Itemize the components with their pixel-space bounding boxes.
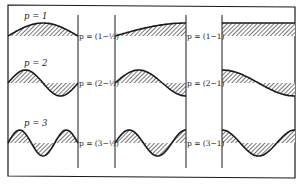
mode-label-open-closed-p2: p = (2−½) bbox=[79, 79, 119, 88]
wave-fill-row3-col1 bbox=[8, 130, 78, 156]
wave-fill-row1-col3 bbox=[222, 23, 295, 36]
mode-label-closed-closed-p3: p = (3−1) bbox=[187, 139, 225, 148]
mode-label-p2: p = 2 bbox=[24, 58, 47, 68]
wave-fill-row1-col2 bbox=[115, 23, 186, 36]
wave-panels bbox=[8, 23, 295, 156]
mode-label-open-closed-p3: p = (3−½) bbox=[79, 139, 119, 148]
mode-label-p3: p = 3 bbox=[24, 118, 47, 128]
wave-fill-row3-col3 bbox=[222, 130, 295, 156]
mode-label-closed-closed-p2: p = (2−1) bbox=[187, 79, 225, 88]
mode-label-closed-closed-p1: p = (1−1) bbox=[187, 32, 225, 41]
standing-wave-diagram: p = 1p = (1−½)p = (1−1)p = 2p = (2−½)p =… bbox=[0, 0, 299, 185]
mode-label-open-closed-p1: p = (1−½) bbox=[79, 32, 119, 41]
mode-label-p1: p = 1 bbox=[24, 11, 47, 21]
diagram-canvas: p = 1p = (1−½)p = (1−1)p = 2p = (2−½)p =… bbox=[0, 0, 299, 185]
